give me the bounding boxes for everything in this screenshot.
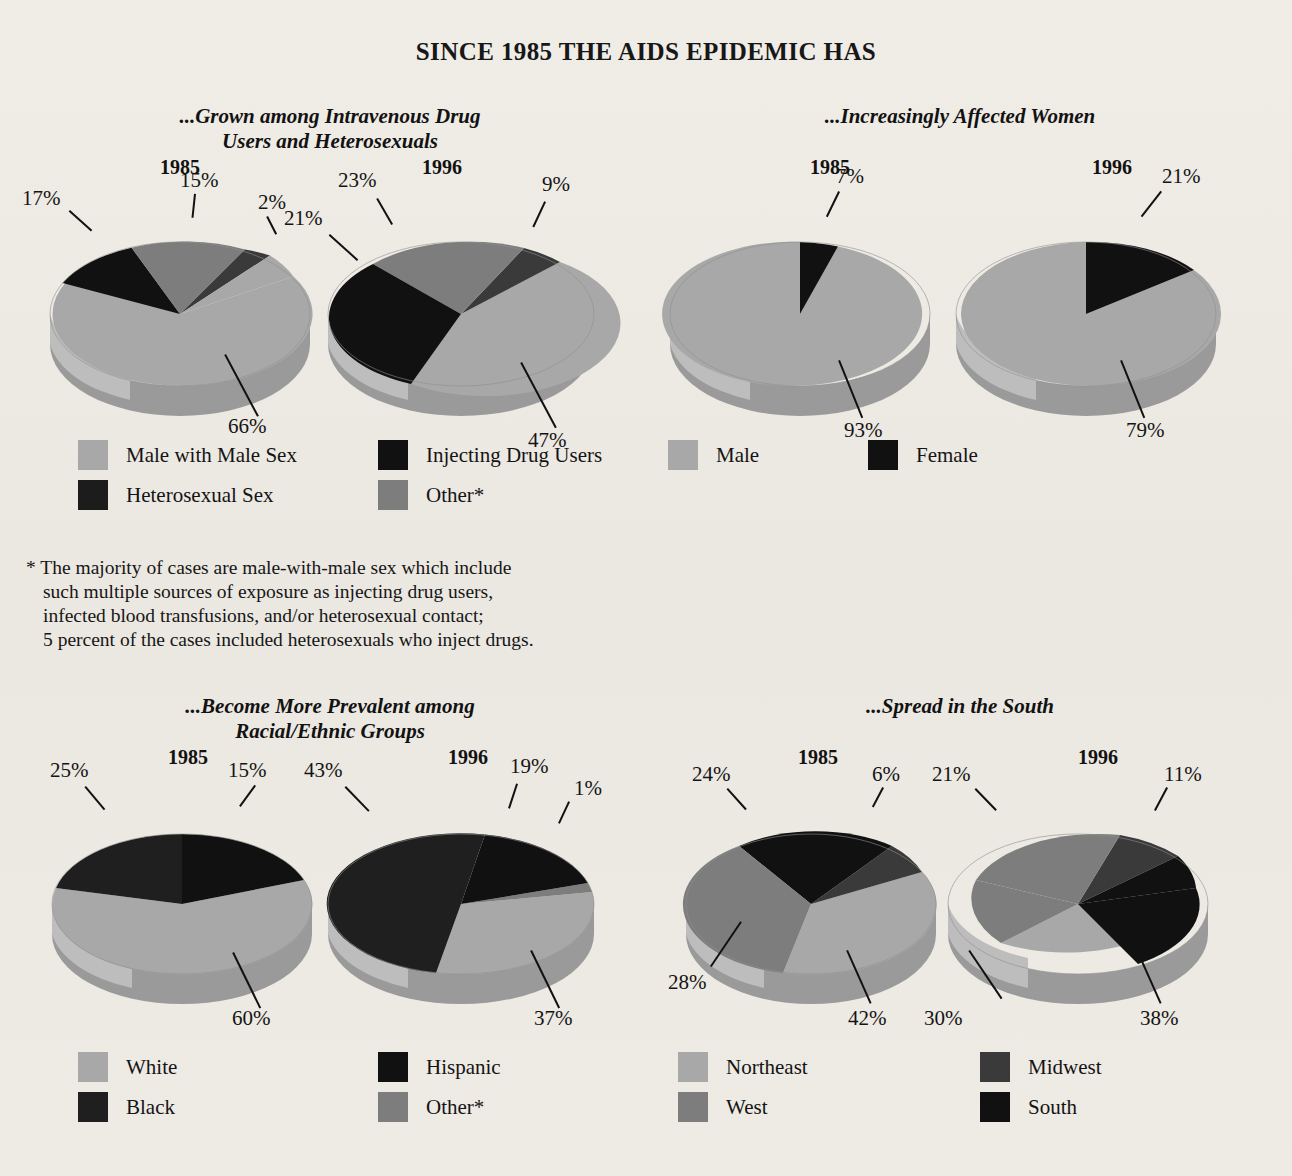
year-label-1996: 1996 bbox=[448, 746, 488, 769]
pct-label: 17% bbox=[22, 186, 61, 211]
panel-title-line: Racial/Ethnic Groups bbox=[235, 719, 425, 743]
legend-item-west[interactable]: West bbox=[678, 1092, 767, 1122]
pct-label: 11% bbox=[1164, 762, 1202, 787]
legend-label: Midwest bbox=[1028, 1055, 1102, 1080]
legend-swatch-icon bbox=[78, 1052, 108, 1082]
panel-transmission: ...Grown among Intravenous Drug Users an… bbox=[20, 104, 640, 524]
pie-transmission-1985: 17% 15% 2% 66% bbox=[40, 192, 320, 422]
page-title: SINCE 1985 THE AIDS EPIDEMIC HAS bbox=[0, 38, 1292, 66]
legend-swatch-icon bbox=[78, 440, 108, 470]
pie-region-1985: 24% 6% 28% 42% bbox=[676, 784, 946, 1014]
panel-transmission-title: ...Grown among Intravenous Drug Users an… bbox=[20, 104, 640, 154]
pct-label: 37% bbox=[534, 1006, 573, 1031]
legend-item-male-with-male-sex[interactable]: Male with Male Sex bbox=[78, 440, 297, 470]
legend-item-other[interactable]: Other* bbox=[378, 480, 484, 510]
legend-item-northeast[interactable]: Northeast bbox=[678, 1052, 808, 1082]
legend-label: Black bbox=[126, 1095, 175, 1120]
legend-label: Heterosexual Sex bbox=[126, 483, 274, 508]
pie-race-1996: 43% 19% 1% 37% bbox=[316, 784, 606, 1014]
pie-chart-svg bbox=[660, 192, 940, 422]
panel-region: ...Spread in the South 1985 1996 24% 6% bbox=[650, 694, 1270, 1134]
pct-label: 1% bbox=[574, 776, 602, 801]
legend-item-female[interactable]: Female bbox=[868, 440, 978, 470]
legend-swatch-icon bbox=[868, 440, 898, 470]
panel-region-title: ...Spread in the South bbox=[650, 694, 1270, 719]
panel-title-line: ...Increasingly Affected Women bbox=[825, 104, 1095, 128]
legend-label: West bbox=[726, 1095, 767, 1120]
legend-label: Other* bbox=[426, 1095, 484, 1120]
footnote-line: infected blood transfusions, and/or hete… bbox=[26, 604, 666, 628]
pct-label: 23% bbox=[338, 168, 377, 193]
legend-swatch-icon bbox=[678, 1092, 708, 1122]
footnote-line: 5 percent of the cases included heterose… bbox=[26, 628, 666, 652]
legend-label: Injecting Drug Users bbox=[426, 443, 602, 468]
pie-chart-svg bbox=[40, 192, 320, 422]
legend-item-hispanic[interactable]: Hispanic bbox=[378, 1052, 501, 1082]
footnote: * The majority of cases are male-with-ma… bbox=[26, 556, 666, 652]
legend-swatch-icon bbox=[678, 1052, 708, 1082]
legend-label: White bbox=[126, 1055, 177, 1080]
pct-label: 6% bbox=[872, 762, 900, 787]
panel-race: ...Become More Prevalent among Racial/Et… bbox=[20, 694, 640, 1134]
legend-swatch-icon bbox=[378, 440, 408, 470]
year-label-1996: 1996 bbox=[1092, 156, 1132, 179]
footnote-line: such multiple sources of exposure as inj… bbox=[26, 580, 666, 604]
pct-label: 15% bbox=[180, 168, 219, 193]
pct-label: 9% bbox=[542, 172, 570, 197]
legend-item-heterosexual-sex[interactable]: Heterosexual Sex bbox=[78, 480, 274, 510]
legend-women: Male Female bbox=[650, 440, 1270, 480]
legend-swatch-icon bbox=[378, 1092, 408, 1122]
pct-label: 19% bbox=[510, 754, 549, 779]
footnote-line: * The majority of cases are male-with-ma… bbox=[26, 556, 666, 580]
pie-chart-svg bbox=[938, 784, 1218, 1014]
pct-label: 28% bbox=[668, 970, 707, 995]
panel-race-title: ...Become More Prevalent among Racial/Et… bbox=[20, 694, 640, 744]
legend-swatch-icon bbox=[78, 480, 108, 510]
legend-swatch-icon bbox=[980, 1092, 1010, 1122]
pct-label: 21% bbox=[1162, 164, 1201, 189]
panel-title-line: Users and Heterosexuals bbox=[222, 129, 438, 153]
pie-race-1985: 25% 15% 60% bbox=[42, 784, 322, 1014]
legend-label: South bbox=[1028, 1095, 1077, 1120]
legend-swatch-icon bbox=[378, 480, 408, 510]
legend-label: Other* bbox=[426, 483, 484, 508]
panel-women: ...Increasingly Affected Women 1985 1996… bbox=[650, 104, 1270, 524]
legend-item-male[interactable]: Male bbox=[668, 440, 759, 470]
pct-label: 60% bbox=[232, 1006, 271, 1031]
pct-label: 21% bbox=[932, 762, 971, 787]
pct-label: 30% bbox=[924, 1006, 963, 1031]
year-label-1996: 1996 bbox=[422, 156, 462, 179]
legend-label: Male bbox=[716, 443, 759, 468]
legend-race: White Hispanic Black Other* bbox=[20, 1052, 640, 1132]
pie-chart-svg bbox=[946, 192, 1226, 422]
pie-region-1996: 21% 11% 30% 38% bbox=[938, 784, 1218, 1014]
year-label-1985: 1985 bbox=[798, 746, 838, 769]
pct-label: 25% bbox=[50, 758, 89, 783]
pct-label: 7% bbox=[836, 164, 864, 189]
legend-item-other[interactable]: Other* bbox=[378, 1092, 484, 1122]
legend-item-black[interactable]: Black bbox=[78, 1092, 175, 1122]
pie-women-1996: 21% 79% bbox=[946, 192, 1226, 422]
legend-swatch-icon bbox=[378, 1052, 408, 1082]
year-label-1985: 1985 bbox=[168, 746, 208, 769]
pct-label: 66% bbox=[228, 414, 267, 439]
pie-chart-svg bbox=[316, 192, 606, 422]
panel-title-line: ...Spread in the South bbox=[866, 694, 1054, 718]
pie-women-1985: 7% 93% bbox=[660, 192, 940, 422]
year-label-1996: 1996 bbox=[1078, 746, 1118, 769]
pct-label: 2% bbox=[258, 190, 286, 215]
panel-title-line: ...Become More Prevalent among bbox=[185, 694, 474, 718]
legend-item-injecting-drug-users[interactable]: Injecting Drug Users bbox=[378, 440, 602, 470]
pct-label: 24% bbox=[692, 762, 731, 787]
legend-item-south[interactable]: South bbox=[980, 1092, 1077, 1122]
panel-women-title: ...Increasingly Affected Women bbox=[650, 104, 1270, 129]
legend-label: Female bbox=[916, 443, 978, 468]
pct-label: 38% bbox=[1140, 1006, 1179, 1031]
panel-title-line: ...Grown among Intravenous Drug bbox=[179, 104, 480, 128]
legend-item-white[interactable]: White bbox=[78, 1052, 177, 1082]
infographic-page: SINCE 1985 THE AIDS EPIDEMIC HAS ...Grow… bbox=[0, 0, 1292, 1176]
legend-swatch-icon bbox=[668, 440, 698, 470]
legend-item-midwest[interactable]: Midwest bbox=[980, 1052, 1102, 1082]
legend-label: Hispanic bbox=[426, 1055, 501, 1080]
legend-region: Northeast Midwest West South bbox=[650, 1052, 1270, 1132]
